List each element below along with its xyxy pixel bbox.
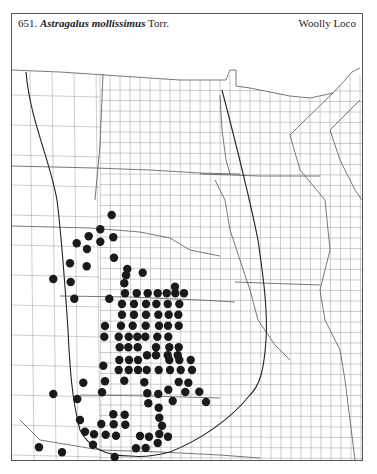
county-line — [12, 365, 100, 367]
occurrence-dot — [125, 366, 133, 374]
occurrence-dot — [180, 289, 188, 297]
occurrence-dot — [108, 211, 116, 219]
occurrence-dot — [143, 366, 151, 374]
occurrence-dot — [165, 356, 173, 364]
occurrence-dot — [175, 300, 183, 308]
occurrence-dot — [130, 300, 138, 308]
occurrence-dot — [124, 343, 132, 351]
occurrence-dot — [90, 430, 98, 438]
county-grid — [12, 70, 362, 460]
occurrence-dot — [125, 356, 133, 364]
occurrence-dot — [143, 389, 151, 397]
county-line — [12, 125, 100, 127]
occurrence-dot — [134, 343, 142, 351]
occurrence-dot — [164, 386, 172, 394]
occurrence-dot — [101, 322, 109, 330]
occurrence-dot — [174, 311, 182, 319]
occurrence-dot — [102, 431, 110, 439]
county-line — [100, 195, 362, 196]
occurrence-dot — [89, 441, 97, 449]
occurrence-dot — [121, 411, 129, 419]
occurrence-dot — [121, 421, 129, 429]
occurrence-dot — [140, 378, 148, 386]
occurrence-dot — [155, 322, 163, 330]
occurrence-dot — [120, 377, 128, 385]
occurrence-dot — [116, 343, 124, 351]
county-line — [100, 132, 362, 133]
occurrence-dot — [141, 333, 149, 341]
occurrence-dot — [158, 422, 166, 430]
occurrence-dot — [154, 289, 162, 297]
occurrence-dot — [100, 333, 108, 341]
occurrence-dot — [195, 388, 203, 396]
county-line — [100, 237, 362, 238]
county-line — [100, 216, 362, 217]
county-line — [110, 75, 111, 460]
occurrence-dot — [142, 311, 150, 319]
occurrence-dot — [136, 432, 144, 440]
occurrence-dot — [142, 300, 150, 308]
occurrence-dot — [144, 289, 152, 297]
occurrence-dot — [188, 366, 196, 374]
county-line — [100, 269, 362, 270]
occurrence-dot — [152, 300, 160, 308]
county-line — [100, 353, 362, 354]
occurrence-dot — [35, 443, 43, 451]
county-line — [100, 164, 362, 165]
occurrence-dot — [163, 289, 171, 297]
occurrence-dot — [66, 259, 74, 267]
occurrence-dot — [117, 322, 125, 330]
occurrence-dot — [132, 444, 140, 452]
occurrence-dot — [58, 448, 66, 456]
occurrence-dot — [67, 278, 75, 286]
occurrence-dot — [175, 378, 183, 386]
occurrence-dot — [115, 333, 123, 341]
occurrence-dot — [96, 238, 104, 246]
county-line — [12, 335, 100, 337]
occurrence-dot — [155, 404, 163, 412]
county-line — [220, 75, 221, 460]
occurrence-dot — [145, 433, 153, 441]
county-line — [100, 321, 362, 322]
occurrence-dot — [133, 289, 141, 297]
county-line — [230, 75, 231, 460]
occurrence-dot — [187, 356, 195, 364]
occurrence-dot — [98, 388, 106, 396]
occurrence-dot — [164, 322, 172, 330]
occurrence-dot — [122, 271, 130, 279]
occurrence-dot — [112, 432, 120, 440]
occurrence-dot — [115, 356, 123, 364]
county-line — [100, 258, 362, 259]
occurrence-dot — [154, 439, 162, 447]
occurrence-dot — [155, 430, 163, 438]
occurrence-dot — [49, 275, 57, 283]
occurrence-dot — [152, 343, 160, 351]
county-line — [100, 185, 362, 186]
occurrence-dot — [110, 254, 118, 262]
occurrence-dot — [153, 333, 161, 341]
county-line — [100, 111, 362, 112]
county-line — [100, 206, 362, 207]
state-boundaries — [12, 68, 362, 460]
occurrence-dot — [134, 366, 142, 374]
occurrence-dot — [166, 366, 174, 374]
occurrence-dot — [144, 399, 152, 407]
occurrence-dot — [70, 295, 78, 303]
occurrence-dot — [118, 311, 126, 319]
county-line — [100, 311, 362, 312]
distribution-map — [0, 0, 377, 474]
occurrence-dot — [83, 245, 91, 253]
occurrence-dot — [139, 269, 147, 277]
occurrence-dot — [175, 343, 183, 351]
occurrence-dot — [96, 225, 104, 233]
sd-ne-line — [12, 226, 220, 256]
occurrence-dot — [171, 289, 179, 297]
occurrence-dot — [152, 351, 160, 359]
occurrence-dot — [154, 311, 162, 319]
occurrence-dot — [105, 295, 113, 303]
occurrence-dot — [143, 351, 151, 359]
occurrence-dot — [109, 410, 117, 418]
county-line — [100, 90, 362, 91]
occurrence-dot — [165, 311, 173, 319]
county-line — [12, 215, 100, 217]
